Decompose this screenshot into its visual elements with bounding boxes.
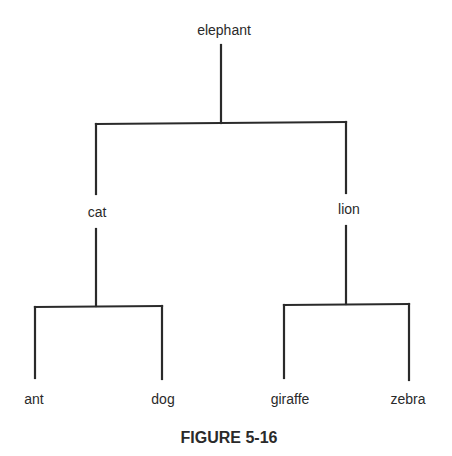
edge-lion-bar [284, 304, 409, 305]
node-zebra: zebra [390, 391, 425, 407]
node-giraffe: giraffe [271, 391, 310, 407]
node-root: elephant [197, 22, 251, 38]
node-cat: cat [88, 204, 107, 220]
node-lion: lion [338, 201, 360, 217]
node-ant: ant [24, 391, 43, 407]
edge-root-bar [96, 122, 346, 124]
figure-caption: FIGURE 5-16 [181, 429, 278, 447]
tree-edges [0, 0, 452, 456]
node-dog: dog [151, 391, 174, 407]
edge-cat-bar [35, 306, 162, 307]
